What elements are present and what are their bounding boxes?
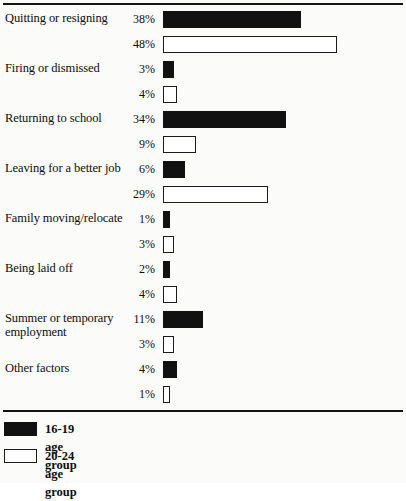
chart-row: 3% (0, 235, 406, 259)
chart-row: 29% (0, 185, 406, 209)
bar (163, 386, 170, 403)
value-label: 11% (96, 312, 155, 326)
legend-swatch (4, 449, 37, 463)
chart-row: Leaving for a better job6% (0, 160, 406, 184)
bar (163, 111, 286, 128)
bar (163, 61, 174, 78)
bar (163, 11, 301, 28)
bar (163, 86, 177, 103)
legend-swatch (4, 422, 37, 436)
chart-row: 3% (0, 335, 406, 359)
bar (163, 236, 174, 253)
bar (163, 261, 170, 278)
plot-area: Quitting or resigning38%48%Firing or dis… (0, 8, 406, 406)
bar (163, 36, 337, 53)
chart-row: 48% (0, 35, 406, 59)
bar (163, 136, 196, 153)
value-label: 38% (96, 12, 155, 26)
chart-row: 4% (0, 85, 406, 109)
value-label: 1% (96, 387, 155, 401)
chart-row: 4% (0, 285, 406, 309)
chart-row: 9% (0, 135, 406, 159)
value-label: 1% (96, 212, 155, 226)
bar (163, 161, 185, 178)
chart-row: Firing or dismissed3% (0, 60, 406, 84)
bar (163, 336, 174, 353)
bar (163, 286, 177, 303)
value-label: 9% (96, 137, 155, 151)
top-rule (3, 3, 403, 5)
chart-row: Summer or temporary employment11% (0, 310, 406, 334)
legend-divider-rule (3, 410, 403, 412)
value-label: 34% (96, 112, 155, 126)
value-label: 4% (96, 87, 155, 101)
value-label: 48% (96, 37, 155, 51)
bar (163, 186, 268, 203)
chart-row: Family moving/relocate1% (0, 210, 406, 234)
chart-row: 1% (0, 385, 406, 409)
value-label: 3% (96, 62, 155, 76)
value-label: 29% (96, 187, 155, 201)
value-label: 4% (96, 287, 155, 301)
chart-row: Being laid off2% (0, 260, 406, 284)
bar (163, 211, 170, 228)
bar (163, 311, 203, 328)
chart-legend: 16-19 age group20-24 age group (0, 420, 406, 480)
value-label: 6% (96, 162, 155, 176)
value-label: 3% (96, 237, 155, 251)
chart-row: Other factors4% (0, 360, 406, 384)
value-label: 3% (96, 337, 155, 351)
chart-row: Returning to school34% (0, 110, 406, 134)
value-label: 4% (96, 362, 155, 376)
legend-label: 20-24 age group (45, 447, 77, 501)
chart-row: Quitting or resigning38% (0, 10, 406, 34)
bar (163, 361, 177, 378)
value-label: 2% (96, 262, 155, 276)
